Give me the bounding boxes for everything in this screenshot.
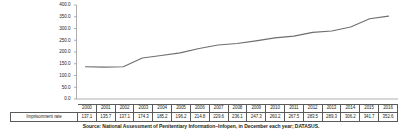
table-header-cell: 2005 [172,104,191,113]
table-value-cell: 135.7 [96,113,115,122]
imprisonment-rate-line [85,16,388,67]
y-axis-tick-label: 100.0 [47,73,71,78]
table-value-cell: 214.8 [190,113,209,122]
y-axis-tick-label: 0.0 [47,96,71,101]
y-axis-tick-label: 150.0 [47,61,71,66]
y-axis-ticks [74,5,77,99]
table-value-cell: 352.6 [379,113,398,122]
table-value-cell: 306.2 [341,113,360,122]
table-value-cell: 236.1 [228,113,247,122]
y-axis-tick-label: 400.0 [47,2,71,7]
table-header-cell: 2001 [96,104,115,113]
table-value-cell: 185.2 [153,113,172,122]
source-caption: Source: National Assessment of Penitenti… [0,123,402,130]
table-header-cell: 2000 [78,104,97,113]
data-table: 2000200120022003200420052006200720082009… [10,104,398,122]
table-value-cell: 137.1 [115,113,134,122]
table-header-cell: 2003 [134,104,153,113]
table-value-cell: 247.3 [247,113,266,122]
table-value-cell: 267.5 [284,113,303,122]
table-value-cell: 137.1 [78,113,97,122]
table-value-cell: 283.5 [303,113,322,122]
table-value-cell: 289.3 [322,113,341,122]
table-header-cell: 2007 [209,104,228,113]
table-header-row: 2000200120022003200420052006200720082009… [11,104,398,113]
table-value-cell: 229.6 [209,113,228,122]
table-header-cell: 2014 [341,104,360,113]
table-header-cell: 2004 [153,104,172,113]
table-header-cell: 2013 [322,104,341,113]
table-header-cell: 2015 [360,104,379,113]
table-header-cell: 2006 [190,104,209,113]
table-header-cell: 2009 [247,104,266,113]
table-header-cell: 2012 [303,104,322,113]
y-axis-tick-label: 200.0 [47,49,71,54]
y-axis-tick-label: 250.0 [47,38,71,43]
table-header-cell: 2010 [266,104,285,113]
table-row: Imprisonment rate 137.1135.7137.1174.318… [11,113,398,122]
plot-region: 400.0350.0300.0250.0200.0150.0100.050.00… [0,0,402,104]
table-value-cell: 174.3 [134,113,153,122]
table-header-cell: 2011 [284,104,303,113]
y-axis-tick-label: 350.0 [47,14,71,19]
chart-figure: 400.0350.0300.0250.0200.0150.0100.050.00… [0,0,402,135]
table-header-cell: 2002 [115,104,134,113]
table-corner-cell [11,104,78,113]
table-header-cell: 2016 [379,104,398,113]
table-header-cell: 2008 [228,104,247,113]
y-axis-tick-label: 50.0 [47,85,71,90]
y-axis-tick-label: 300.0 [47,26,71,31]
table-value-cell: 260.2 [266,113,285,122]
table-value-cell: 341.7 [360,113,379,122]
table-row-label: Imprisonment rate [11,113,78,122]
table-value-cell: 196.2 [172,113,191,122]
